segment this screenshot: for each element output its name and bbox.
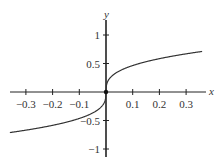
x-tick-label: 0.1 <box>126 98 140 110</box>
y-tick-label: 1 <box>95 29 101 41</box>
x-tick-label: 0.2 <box>153 98 167 110</box>
y-tick-label: −1 <box>88 143 100 155</box>
y-axis-label: y <box>103 8 109 20</box>
chart: −0.3−0.2−0.10.10.20.310.5−0.5−1 x y <box>0 0 223 164</box>
origin-point <box>104 90 108 94</box>
y-tick-label: 0.5 <box>86 58 100 70</box>
x-tick-label: −0.3 <box>16 98 36 110</box>
y-tick-label: −0.5 <box>80 115 100 127</box>
axes <box>10 20 206 157</box>
x-tick-label: −0.2 <box>43 98 63 110</box>
x-tick-label: −0.1 <box>69 98 89 110</box>
x-axis-label: x <box>208 85 214 97</box>
x-tick-label: 0.3 <box>179 98 193 110</box>
